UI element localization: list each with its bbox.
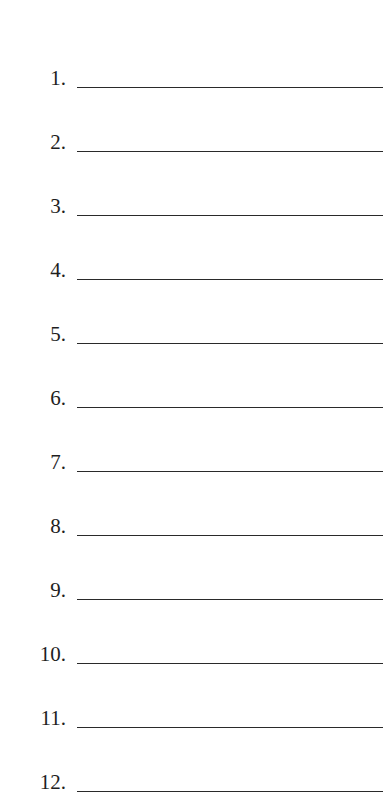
item-number: 9. — [0, 580, 66, 601]
blank-line — [77, 471, 383, 472]
item-number: 11. — [0, 708, 66, 729]
item-number: 3. — [0, 196, 66, 217]
blank-line — [77, 151, 383, 152]
list-item: 11. — [0, 708, 385, 738]
blank-line — [77, 343, 383, 344]
list-item: 8. — [0, 516, 385, 546]
list-item: 2. — [0, 132, 385, 162]
item-number: 6. — [0, 388, 66, 409]
item-number: 1. — [0, 68, 66, 89]
blank-line — [77, 279, 383, 280]
list-item: 9. — [0, 580, 385, 610]
list-item: 5. — [0, 324, 385, 354]
list-item: 7. — [0, 452, 385, 482]
item-number: 12. — [0, 772, 66, 793]
blank-line — [77, 87, 383, 88]
item-number: 4. — [0, 260, 66, 281]
list-item: 3. — [0, 196, 385, 226]
list-item: 4. — [0, 260, 385, 290]
item-number: 8. — [0, 516, 66, 537]
blank-line — [77, 663, 383, 664]
blank-line — [77, 727, 383, 728]
list-item: 12. — [0, 772, 385, 802]
blank-line — [77, 791, 383, 792]
blank-line — [77, 215, 383, 216]
list-item: 6. — [0, 388, 385, 418]
item-number: 2. — [0, 132, 66, 153]
item-number: 10. — [0, 644, 66, 665]
blank-line — [77, 535, 383, 536]
list-item: 1. — [0, 68, 385, 98]
blank-line — [77, 407, 383, 408]
item-number: 5. — [0, 324, 66, 345]
list-item: 10. — [0, 644, 385, 674]
blank-line — [77, 599, 383, 600]
item-number: 7. — [0, 452, 66, 473]
